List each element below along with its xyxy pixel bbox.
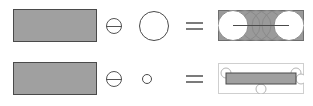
result-panel-light [218, 63, 304, 94]
result-panel-dark [218, 10, 304, 41]
eroded-rectangle [226, 73, 296, 84]
equals-sign [186, 22, 203, 30]
diagram-canvas [0, 0, 313, 106]
equals-sign [186, 75, 203, 83]
large-circle-operand [139, 11, 169, 41]
result-graphic-small-disk [218, 63, 304, 94]
equals-bar-top [186, 75, 203, 77]
circled-minus-operator-icon [106, 18, 122, 34]
small-circle-operand [142, 74, 152, 84]
result-graphic-large-disk [218, 10, 304, 41]
equation-row-erosion-large-disk [0, 0, 313, 53]
gray-rectangle-operand [13, 62, 97, 95]
minus-bar [106, 26, 122, 27]
equals-bar-bottom [186, 28, 203, 30]
minus-bar [106, 79, 122, 80]
disk-corner [256, 84, 266, 94]
equation-row-erosion-small-disk [0, 53, 313, 106]
disk-corner [296, 74, 304, 84]
circled-minus-operator-icon [106, 71, 122, 87]
gray-rectangle-operand [13, 9, 97, 42]
equals-bar-top [186, 22, 203, 24]
equals-bar-bottom [186, 81, 203, 83]
